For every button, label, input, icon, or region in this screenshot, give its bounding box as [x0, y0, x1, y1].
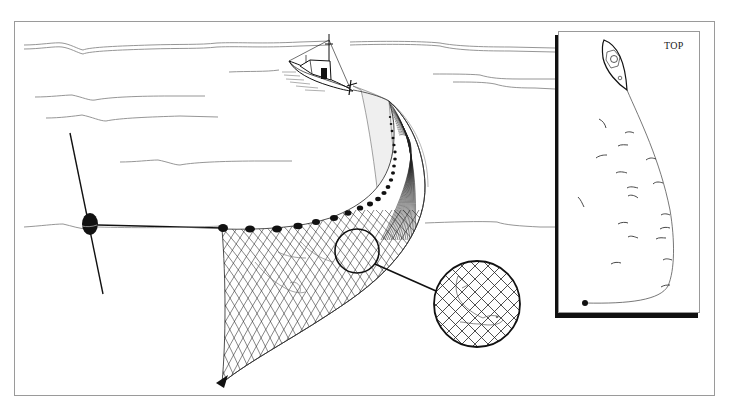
magnifier-connector: [375, 264, 436, 291]
diagram-canvas: TOP: [0, 0, 741, 409]
inset-buoy-dot: [582, 300, 588, 306]
inset-label-top: TOP: [664, 40, 684, 51]
water-lines: [24, 41, 555, 229]
fishing-boat: [289, 34, 357, 95]
marker-buoy: [70, 133, 103, 294]
top-view-inset: [555, 32, 700, 319]
